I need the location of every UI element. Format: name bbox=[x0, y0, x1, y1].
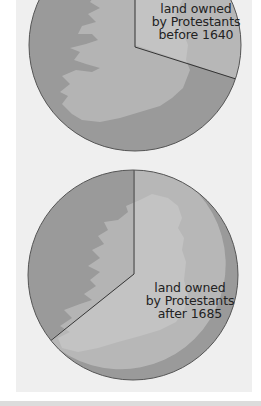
top-label-line3: before 1640 bbox=[138, 28, 254, 41]
top-wedge-label: land owned by Protestants before 1640 bbox=[138, 2, 254, 41]
bottom-wedge-label: land owned by Protestants after 1685 bbox=[138, 281, 242, 320]
bottom-divider bbox=[0, 401, 261, 406]
pie-maps bbox=[0, 0, 261, 406]
bottom-label-line3: after 1685 bbox=[138, 307, 242, 320]
bottom-pie-map bbox=[28, 160, 238, 380]
